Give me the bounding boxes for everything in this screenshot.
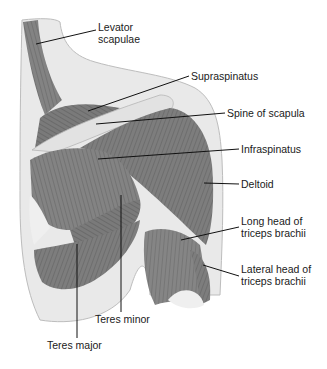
label-supraspinatus: Supraspinatus [191,70,258,82]
label-line: Levator [98,21,140,33]
label-long-head-triceps: Long head of triceps brachii [241,215,306,239]
label-spine-of-scapula: Spine of scapula [227,107,305,119]
label-line: Lateral head of [241,263,311,275]
label-line: Supraspinatus [191,70,258,82]
label-teres-major: Teres major [47,339,102,351]
label-line: Infraspinatus [241,143,301,155]
label-line: Teres minor [95,313,150,325]
shoulder-illustration [0,0,327,369]
label-line: Long head of [241,215,306,227]
label-line: triceps brachii [241,275,311,287]
label-levator-scapulae: Levator scapulae [98,21,140,45]
label-infraspinatus: Infraspinatus [241,143,301,155]
label-teres-minor: Teres minor [95,313,150,325]
label-deltoid: Deltoid [241,178,274,190]
label-line: Deltoid [241,178,274,190]
label-line: triceps brachii [241,227,306,239]
label-line: scapulae [98,33,140,45]
label-line: Teres major [47,339,102,351]
label-line: Spine of scapula [227,107,305,119]
label-lateral-head-triceps: Lateral head of triceps brachii [241,263,311,287]
